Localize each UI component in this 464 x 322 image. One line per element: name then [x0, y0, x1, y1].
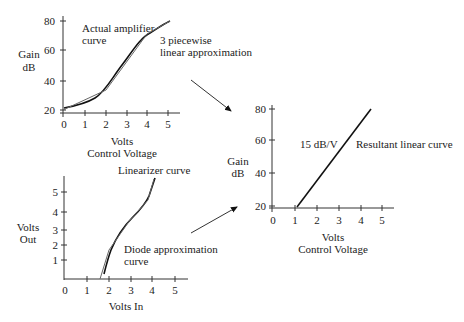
annotation: 15 dB/V: [300, 138, 338, 150]
x-axis-label: Control Voltage: [87, 147, 157, 159]
x-tick: 2: [103, 118, 109, 130]
x-tick: 0: [270, 214, 276, 226]
x-axis-label: Control Voltage: [298, 243, 368, 255]
resultant-linear-curve: [297, 109, 371, 207]
y-tick: 60: [255, 134, 267, 146]
annotation: curve: [124, 255, 149, 267]
x-tick: 0: [61, 118, 67, 130]
arrow-bottom: [191, 207, 237, 233]
arrow-top: [191, 80, 231, 111]
annotation: Diode approximation: [124, 243, 218, 255]
x-tick: 3: [128, 284, 134, 296]
y-axis-label: Gain: [18, 48, 40, 60]
x-axis-label: Volts: [111, 135, 133, 147]
x-tick: 4: [149, 284, 155, 296]
x-tick: 5: [172, 284, 178, 296]
y-axis-label: Gain: [227, 155, 249, 167]
y-tick: 80: [44, 15, 56, 27]
x-tick: 4: [358, 214, 364, 226]
y-tick: 2: [53, 239, 59, 251]
y-tick: 80: [255, 103, 267, 115]
y-tick: 4: [53, 206, 59, 218]
annotation: 3 piecewise: [160, 34, 212, 46]
diagram-canvas: 80 60 40 20 0 1 2 3 4 5 Gain dB Volts Co…: [0, 0, 464, 322]
x-tick: 3: [336, 214, 342, 226]
y-tick: 20: [255, 200, 267, 212]
x-tick: 5: [165, 118, 171, 130]
resultant-chart: 80 60 40 20 0 1 2 3 4 5 Gain dB Volts Co…: [227, 103, 452, 255]
annotation: linear approximation: [160, 46, 252, 58]
y-tick: 40: [44, 75, 56, 87]
x-axis-label: Volts In: [109, 300, 144, 312]
y-tick: 60: [44, 44, 56, 56]
y-tick: 1: [53, 254, 59, 266]
y-axis-label: Volts: [17, 221, 39, 233]
y-axis-label: dB: [232, 167, 245, 179]
y-axis-label: Out: [20, 233, 37, 245]
x-tick: 4: [144, 118, 150, 130]
amplifier-chart: 80 60 40 20 0 1 2 3 4 5 Gain dB Volts Co…: [18, 15, 252, 159]
x-tick: 2: [314, 214, 320, 226]
x-tick: 2: [106, 284, 112, 296]
actual-amplifier-curve: [64, 21, 170, 108]
y-tick: 3: [53, 224, 59, 236]
annotation: Resultant linear curve: [356, 138, 453, 150]
y-axis-label: dB: [23, 61, 36, 73]
x-tick: 0: [62, 284, 68, 296]
annotation: curve: [82, 34, 107, 46]
x-axis-label: Volts: [322, 231, 344, 243]
y-tick: 20: [44, 104, 56, 116]
y-tick: 5: [53, 186, 59, 198]
annotation: Actual amplifier: [82, 22, 155, 34]
linearizer-chart: 5 4 3 2 1 0 1 2 3 4 5 Volts Out Volts In…: [17, 164, 218, 312]
annotation: Linearizer curve: [118, 164, 190, 176]
y-tick: 40: [255, 167, 267, 179]
x-tick: 5: [379, 214, 385, 226]
x-tick: 1: [82, 118, 88, 130]
x-tick: 1: [292, 214, 298, 226]
piecewise-approximation: [63, 21, 170, 110]
x-tick: 1: [84, 284, 90, 296]
x-tick: 3: [124, 118, 130, 130]
